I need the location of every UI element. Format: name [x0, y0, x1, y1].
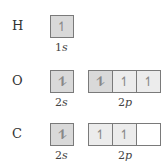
subshell-label-o-2p: 2p — [118, 96, 132, 109]
orbital-c-2p-2: ↿ — [112, 123, 137, 146]
orbital-c-2s: ⥮ — [50, 123, 74, 146]
element-label-o: O — [12, 73, 23, 88]
subshell-label-h-1s: 1s — [55, 41, 68, 54]
subshell-label-o-2s: 2s — [55, 96, 68, 109]
element-label-h: H — [12, 18, 23, 33]
orbital-o-2p-3: ↿ — [136, 70, 161, 93]
orbital-o-2s: ⥮ — [50, 70, 74, 93]
element-label-c: C — [12, 126, 22, 141]
orbital-h-1s: ↿ — [50, 15, 74, 38]
subshell-label-c-2s: 2s — [55, 149, 68, 162]
orbital-o-2p-2: ↿ — [112, 70, 137, 93]
orbital-c-2p-3 — [136, 123, 161, 146]
subshell-label-c-2p: 2p — [118, 149, 132, 162]
orbital-o-2p-1: ⥮ — [88, 70, 113, 93]
orbital-c-2p-1: ↿ — [88, 123, 113, 146]
